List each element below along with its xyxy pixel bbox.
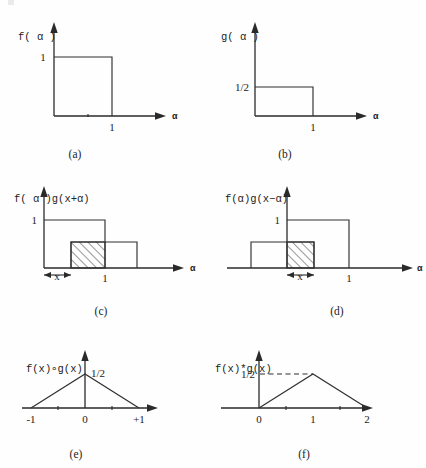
- panel-d-axis-var: α: [417, 263, 423, 273]
- panel-d-plot: f(α)g(x−α) 1 x 1 α (d): [213, 172, 426, 322]
- x-axis-arrowhead: [155, 112, 166, 119]
- panel-e-caption: (e): [70, 448, 83, 461]
- overlap-hatched-region: [287, 242, 314, 268]
- panel-a-plot: f( α ) 1 1 α (a): [0, 4, 213, 164]
- panel-d-title: f(α)g(x−α): [225, 193, 288, 205]
- panel-e-x-tick-neg1: -1: [26, 413, 35, 425]
- panel-c-plot: f( α )g(x+α) 1 x 1 α (c): [0, 172, 213, 322]
- x-dimension-arrow-left: [44, 272, 51, 278]
- panel-d-caption: (d): [330, 305, 344, 318]
- panel-a-x-tick: 1: [109, 121, 115, 133]
- x-axis-arrowhead: [402, 264, 413, 271]
- y-axis-arrowhead: [255, 350, 262, 361]
- x-axis-arrowhead: [173, 264, 184, 271]
- panel-b-axis-var: α: [373, 111, 379, 121]
- panel-e-plot: f(x)∘g(x) 1/2 -1 0 +1 (e): [0, 330, 213, 468]
- panel-f-x-tick-one: 1: [310, 413, 316, 425]
- panel-e-x-tick-pos1: +1: [133, 413, 145, 425]
- panel-f: f(x)*g(x) 1/2 0 1 2 (f): [213, 330, 426, 468]
- panel-d-y-tick: 1: [275, 214, 281, 226]
- panel-f-plot: f(x)*g(x) 1/2 0 1 2 (f): [213, 330, 426, 468]
- x-axis-arrowhead: [147, 404, 158, 411]
- panel-b-plot: g( α ) 1/2 1 α (b): [213, 4, 426, 164]
- panel-a-title: f( α ): [18, 31, 56, 43]
- panel-e: f(x)∘g(x) 1/2 -1 0 +1 (e): [0, 330, 213, 468]
- x-dimension-arrow-right: [64, 272, 71, 278]
- panel-d-x-tick-one: 1: [346, 272, 352, 284]
- panel-d: f(α)g(x−α) 1 x 1 α (d): [213, 172, 426, 322]
- panel-e-x-tick-zero: 0: [82, 413, 88, 425]
- panel-e-peak-label: 1/2: [91, 367, 105, 379]
- y-axis-arrowhead: [81, 350, 88, 361]
- panel-b: g( α ) 1/2 1 α (b): [213, 4, 426, 164]
- panel-f-x-tick-zero: 0: [256, 413, 262, 425]
- panel-b-title: g( α ): [221, 31, 259, 43]
- panel-c-axis-var: α: [190, 263, 196, 273]
- panel-b-caption: (b): [278, 148, 292, 161]
- panel-b-y-tick: 1/2: [235, 81, 249, 93]
- panel-c: f( α )g(x+α) 1 x 1 α (c): [0, 172, 213, 322]
- panel-a-y-tick: 1: [40, 51, 46, 63]
- x-dimension-arrow-left: [287, 272, 294, 278]
- panel-a-caption: (a): [69, 148, 82, 161]
- panel-b-x-tick: 1: [310, 121, 316, 133]
- x-dimension-arrow-right: [307, 272, 314, 278]
- panel-f-y-tick: 1/2: [241, 368, 255, 380]
- panel-a-axis-var: α: [172, 111, 178, 121]
- panel-c-x-tick-x: x: [54, 270, 60, 282]
- figure-root: f( α ) 1 1 α (a) g( α ) 1/2 1 α (b): [0, 0, 426, 468]
- panel-f-caption: (f): [298, 448, 310, 461]
- panel-e-title: f(x)∘g(x): [26, 363, 83, 375]
- rect-g-outline: [255, 87, 313, 116]
- panel-c-x-tick-one: 1: [102, 272, 108, 284]
- x-axis-arrowhead: [356, 112, 367, 119]
- overlap-hatched-region: [71, 242, 105, 268]
- panel-a: f( α ) 1 1 α (a): [0, 4, 213, 164]
- panel-d-x-tick-x: x: [297, 270, 303, 282]
- panel-c-caption: (c): [95, 305, 108, 318]
- panel-c-y-tick: 1: [32, 214, 38, 226]
- convolution-triangle: [259, 374, 367, 408]
- panel-f-x-tick-two: 2: [364, 413, 370, 425]
- rect-f-outline: [54, 57, 112, 116]
- panel-c-title: f( α )g(x+α): [14, 193, 90, 205]
